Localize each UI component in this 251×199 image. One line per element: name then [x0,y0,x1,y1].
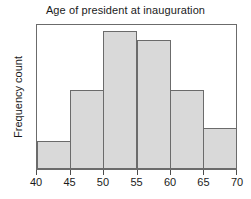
x-axis-tick-label: 40 [30,176,42,188]
histogram-bar [170,90,204,169]
x-axis-tick-label: 55 [130,176,142,188]
y-axis-label: Frequency count [12,56,24,138]
histogram-bar [137,40,171,169]
x-axis-tick-label: 45 [63,176,75,188]
histogram-bar [103,31,137,169]
histogram-bar [203,128,237,169]
x-axis-tick-mark [70,170,71,175]
histogram-figure: Age of president at inauguration Frequen… [0,0,251,199]
x-axis-tick-label: 50 [97,176,109,188]
x-axis-tick-mark [103,170,104,175]
x-axis-tick-label: 65 [197,176,209,188]
x-axis-tick-label: 60 [164,176,176,188]
x-axis-tick-mark [137,170,138,175]
histogram-bar [70,90,104,169]
x-axis-tick-labels: 40455055606570 [36,176,237,192]
x-axis-tick-mark [36,170,37,175]
chart-title: Age of president at inauguration [0,4,251,16]
x-axis-tick-mark [170,170,171,175]
plot-area [36,24,237,170]
x-axis-tick-mark [203,170,204,175]
histogram-bar [37,141,71,169]
x-axis-tick-label: 70 [231,176,243,188]
y-axis-label-container: Frequency count [10,24,26,170]
x-axis-tick-mark [236,170,237,175]
